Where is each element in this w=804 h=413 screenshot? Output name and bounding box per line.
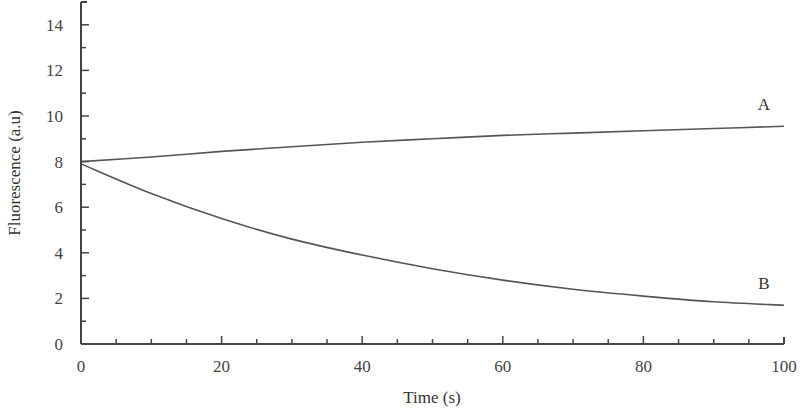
x-tick-label: 40 xyxy=(354,357,371,376)
x-axis-title: Time (s) xyxy=(403,388,460,407)
y-tick-label: 12 xyxy=(46,61,63,80)
y-axis: 02468101214 xyxy=(46,2,89,354)
y-tick-label: 4 xyxy=(55,244,64,263)
x-tick-label: 80 xyxy=(635,357,652,376)
series-label-a: A xyxy=(758,95,771,114)
x-axis: 020406080100 xyxy=(77,336,797,376)
y-tick-label: 14 xyxy=(46,16,64,35)
y-tick-label: 8 xyxy=(55,153,64,172)
x-tick-label: 20 xyxy=(213,357,230,376)
y-tick-label: 6 xyxy=(55,198,64,217)
series-line-a xyxy=(81,126,784,161)
series-label-b: B xyxy=(758,274,769,293)
y-tick-label: 0 xyxy=(55,335,64,354)
line-chart: 02468101214 020406080100 AB Time (s) Flu… xyxy=(0,0,804,413)
y-tick-label: 2 xyxy=(55,289,64,308)
series-line-b xyxy=(81,164,784,305)
series-lines: AB xyxy=(81,95,784,305)
x-tick-label: 100 xyxy=(771,357,797,376)
x-tick-label: 60 xyxy=(494,357,511,376)
x-tick-label: 0 xyxy=(77,357,86,376)
y-axis-title: Fluorescence (a.u) xyxy=(5,110,24,236)
y-tick-label: 10 xyxy=(46,107,63,126)
